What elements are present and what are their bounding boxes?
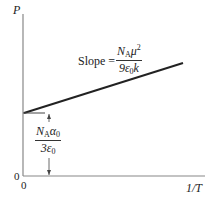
x-zero-tick: 0 [21, 180, 27, 191]
intercept-num-n: N [36, 124, 44, 138]
arrowhead-up-icon [47, 114, 51, 119]
slope-den-k: k [134, 61, 139, 75]
intercept-fraction: NAα0 3ε0 [35, 125, 61, 156]
y-axis-label: P [13, 4, 20, 16]
chart-canvas [0, 0, 213, 198]
slope-fraction: NAμ2 9ε0k [116, 44, 142, 76]
intercept-den-sub: 0 [51, 147, 55, 156]
slope-num-sup: 2 [137, 43, 141, 52]
slope-prefix: Slope = [78, 55, 115, 67]
slope-numerator: NAμ2 [116, 44, 142, 61]
data-line [24, 63, 183, 113]
slope-num-n: N [117, 44, 125, 58]
intercept-den-main: 3ε [41, 141, 52, 155]
x-axis-label: 1/T [186, 182, 202, 194]
y-zero-tick: 0 [14, 171, 20, 182]
slope-denominator: 9ε0k [116, 61, 142, 76]
slope-den-main: 9ε [119, 61, 130, 75]
intercept-denominator: 3ε0 [35, 141, 61, 156]
intercept-numerator: NAα0 [35, 125, 61, 141]
intercept-num-alpha-sub: 0 [56, 130, 60, 139]
arrowhead-down-icon [47, 170, 51, 175]
